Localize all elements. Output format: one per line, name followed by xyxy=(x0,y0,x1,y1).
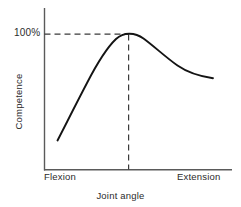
competence-joint-angle-chart: 100% Competence Flexion Extension Joint … xyxy=(0,0,241,207)
competence-curve xyxy=(58,34,214,141)
x-axis-title: Joint angle xyxy=(0,190,241,201)
x-axis-tick-label-flexion: Flexion xyxy=(44,171,76,182)
x-axis-tick-label-extension: Extension xyxy=(177,171,221,182)
y-axis-tick-label-100-percent: 100% xyxy=(14,27,40,38)
y-axis-title: Competence xyxy=(13,62,24,142)
